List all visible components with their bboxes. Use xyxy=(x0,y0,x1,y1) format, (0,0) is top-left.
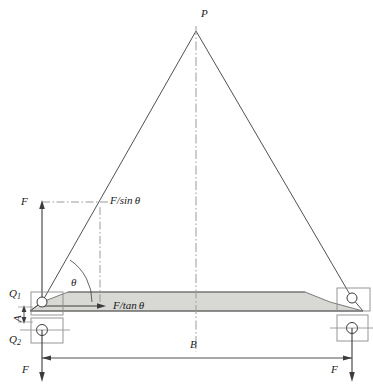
right-upper-pin xyxy=(347,293,357,303)
label-reaction-Q1: Q1 xyxy=(9,288,21,301)
force-bottom-right-arrowhead xyxy=(349,372,355,382)
label-sling-tension: F/sinθ xyxy=(110,195,140,206)
label-sling-tension-expr: F/sin xyxy=(110,194,133,206)
label-reaction-Q2: Q2 xyxy=(9,334,21,347)
label-force-bottom-left: F xyxy=(22,364,29,375)
sling-right-line xyxy=(196,31,352,298)
force-diagram: P F F/sinθ θ F/tanθ Q1 Q2 A B F F xyxy=(0,0,373,385)
label-horizontal-thrust: F/tanθ xyxy=(113,300,144,311)
label-sling-tension-theta: θ xyxy=(135,194,140,206)
label-force-left-top: F xyxy=(21,196,28,207)
construction-lines xyxy=(42,202,110,306)
span-dim-arrow-right xyxy=(343,356,352,361)
label-angle-theta: θ xyxy=(71,277,76,288)
force-bottom-left xyxy=(39,330,45,382)
sling-left-line xyxy=(42,31,196,302)
label-Q1-base: Q xyxy=(9,287,17,299)
left-upper-pin xyxy=(37,297,47,307)
label-span-B: B xyxy=(190,339,197,350)
span-dimension xyxy=(42,356,352,361)
force-bottom-left-arrowhead xyxy=(39,372,45,382)
label-force-bottom-right: F xyxy=(331,364,338,375)
force-bottom-right xyxy=(349,328,355,382)
label-Q2-subscript: 2 xyxy=(17,338,21,347)
label-thrust-expr: F/tan xyxy=(113,299,137,311)
label-thrust-theta: θ xyxy=(139,299,144,311)
label-Q1-subscript: 1 xyxy=(17,292,21,301)
span-dim-arrow-left xyxy=(42,356,51,361)
force-left-vertical xyxy=(39,200,45,302)
label-Q2-base: Q xyxy=(9,333,17,345)
diagram-canvas xyxy=(0,0,373,385)
force-left-arrowhead xyxy=(39,200,45,209)
label-apex-P: P xyxy=(201,8,208,19)
label-height-A: A xyxy=(12,315,23,322)
height-dim-arrow-top xyxy=(22,305,27,312)
